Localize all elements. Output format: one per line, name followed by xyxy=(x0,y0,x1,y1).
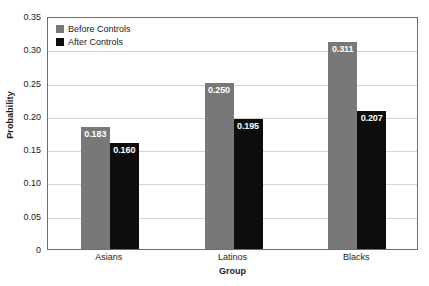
legend-item-before: Before Controls xyxy=(56,23,131,34)
bar-value-label: 0.195 xyxy=(234,121,263,131)
y-tick-label: 0 xyxy=(36,245,41,255)
bar-blacks-after: 0.207 xyxy=(357,111,386,249)
bar-latinos-before: 0.250 xyxy=(205,83,234,249)
gridline xyxy=(48,51,417,52)
bar-value-label: 0.160 xyxy=(110,145,139,155)
legend-label-after: After Controls xyxy=(68,37,123,47)
x-tick-label-asians: Asians xyxy=(95,252,122,262)
x-tick-label-blacks: Blacks xyxy=(343,252,370,262)
x-tick-label-latinos: Latinos xyxy=(218,252,247,262)
y-axis-tick-labels: 00.050.100.150.200.250.300.35 xyxy=(0,0,45,286)
legend-swatch-before-icon xyxy=(56,25,64,33)
plot-area: 0.1830.1600.2500.1950.3110.207 Before Co… xyxy=(47,17,418,250)
y-tick-label: 0.20 xyxy=(23,112,41,122)
legend-item-after: After Controls xyxy=(56,36,131,47)
bar-value-label: 0.183 xyxy=(81,129,110,139)
bar-chart-figure: Probability 00.050.100.150.200.250.300.3… xyxy=(0,0,429,286)
bar-asians-after: 0.160 xyxy=(110,143,139,250)
y-tick-label: 0.35 xyxy=(23,12,41,22)
bar-value-label: 0.250 xyxy=(205,85,234,95)
bar-latinos-after: 0.195 xyxy=(234,119,263,249)
legend-label-before: Before Controls xyxy=(68,24,131,34)
bar-value-label: 0.311 xyxy=(328,44,357,54)
chart-legend: Before Controls After Controls xyxy=(56,23,131,47)
bar-blacks-before: 0.311 xyxy=(328,42,357,249)
bar-value-label: 0.207 xyxy=(357,113,386,123)
y-tick-label: 0.10 xyxy=(23,178,41,188)
y-tick-label: 0.30 xyxy=(23,45,41,55)
bar-asians-before: 0.183 xyxy=(81,127,110,249)
y-tick-label: 0.15 xyxy=(23,145,41,155)
x-axis-title: Group xyxy=(47,266,418,276)
y-tick-label: 0.05 xyxy=(23,212,41,222)
legend-swatch-after-icon xyxy=(56,38,64,46)
y-tick-label: 0.25 xyxy=(23,79,41,89)
